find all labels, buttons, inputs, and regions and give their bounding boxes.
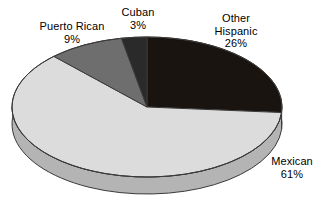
slice-label-puerto-rican-name: Puerto Rican bbox=[30, 20, 114, 33]
pie-top-face bbox=[12, 37, 282, 177]
slice-label-other-hispanic-percent: 26% bbox=[200, 37, 272, 50]
slice-label-mexican-percent: 61% bbox=[258, 168, 326, 181]
slice-label-other-hispanic-name-line1: Other bbox=[200, 12, 272, 25]
slice-label-other-hispanic: Other Hispanic 26% bbox=[200, 12, 272, 50]
slice-label-puerto-rican: Puerto Rican 9% bbox=[30, 20, 114, 45]
slice-label-other-hispanic-name-line2: Hispanic bbox=[200, 25, 272, 38]
slice-label-puerto-rican-percent: 9% bbox=[30, 33, 114, 46]
slice-label-mexican: Mexican 61% bbox=[258, 155, 326, 180]
slice-label-cuban: Cuban 3% bbox=[108, 6, 168, 31]
slice-label-mexican-name: Mexican bbox=[258, 155, 326, 168]
slice-label-cuban-percent: 3% bbox=[108, 19, 168, 32]
slice-label-cuban-name: Cuban bbox=[108, 6, 168, 19]
pie-chart: Puerto Rican 9% Cuban 3% Other Hispanic … bbox=[0, 0, 330, 210]
